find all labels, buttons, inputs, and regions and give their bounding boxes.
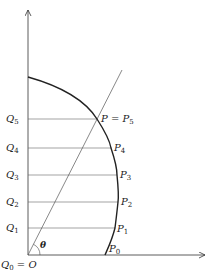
label-q1: Q1 (6, 222, 19, 235)
label-theta: θ (40, 240, 46, 250)
label-p0: P0 (108, 243, 120, 256)
label-p5: P = P5 (100, 113, 134, 126)
label-q5: Q5 (6, 113, 19, 126)
label-p1: P1 (116, 223, 128, 236)
label-p4: P4 (113, 142, 126, 155)
label-origin: Q0 = O (1, 259, 37, 272)
label-q4: Q4 (6, 142, 19, 155)
diagram-canvas: Q1 Q2 Q3 Q4 Q5 Q0 = O θ P0 P1 P2 P3 P4 P… (0, 0, 211, 277)
label-p3: P3 (119, 169, 131, 182)
label-p2: P2 (120, 196, 132, 209)
label-q2: Q2 (6, 196, 19, 209)
label-q3: Q3 (6, 169, 19, 182)
